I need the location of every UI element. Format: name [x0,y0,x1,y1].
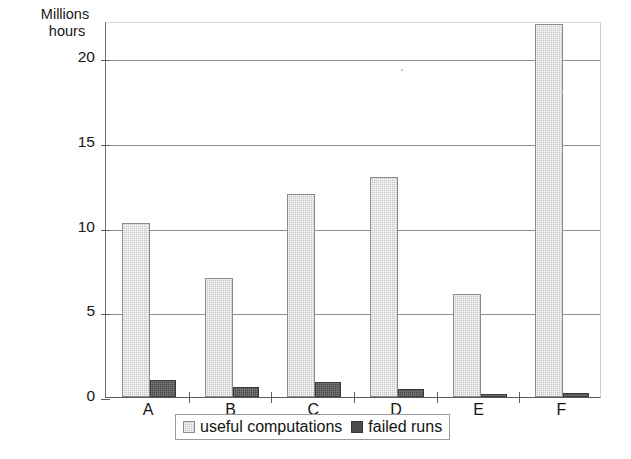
bar-useful-computations-c [287,194,315,397]
y-axis-tick [101,230,110,231]
y-axis-tick-label: 5 [55,302,95,320]
x-axis-tick-label-f: F [539,401,583,419]
x-axis-tick-label-a: A [126,401,170,419]
y-axis-tick [101,314,110,315]
legend-item-failed-runs: failed runs [351,418,442,436]
legend-label-useful-computations: useful computations [200,418,342,436]
y-axis-title: Millions hours [22,6,108,40]
y-axis-tick-label: 10 [55,218,95,236]
x-axis-tick [271,392,272,403]
plot-area [105,22,601,398]
legend-label-failed-runs: failed runs [368,418,442,436]
x-axis-tick [189,392,190,403]
scan-speck [401,69,403,71]
bar-useful-computations-a [122,223,150,397]
legend-item-useful-computations: useful computations [183,418,342,436]
x-axis-tick [437,392,438,403]
x-axis-tick-label-e: E [457,401,501,419]
bar-useful-computations-d [370,177,398,397]
gridline [106,230,600,231]
y-axis-tick-label: 20 [55,48,95,66]
gridline [106,145,600,146]
gridline [106,60,600,61]
y-axis-tick [101,60,110,61]
bar-failed-runs-b [233,387,259,397]
bar-useful-computations-f [535,24,563,397]
bar-failed-runs-c [315,382,341,397]
light-gray-swatch-icon [183,421,195,433]
y-axis-tick [101,399,110,400]
bar-failed-runs-a [150,380,176,397]
y-axis-tick-label: 15 [55,133,95,151]
x-axis-tick [354,392,355,403]
bar-failed-runs-f [563,393,589,397]
y-axis-title-line-2: hours [26,23,108,40]
scan-speck [561,91,563,93]
x-axis-tick [519,392,520,403]
bar-failed-runs-d [398,389,424,397]
bar-useful-computations-e [453,294,481,397]
gridline [106,314,600,315]
chart-legend: useful computations failed runs [175,414,450,440]
y-axis-tick [101,145,110,146]
y-axis-tick-label: 0 [55,387,95,405]
bar-chart-figure: Millions hours 05101520 ABCDEF useful co… [0,0,631,459]
bar-failed-runs-e [481,394,507,397]
bar-useful-computations-b [205,278,233,397]
y-axis-title-line-1: Millions [22,6,108,23]
dark-gray-swatch-icon [351,421,363,433]
